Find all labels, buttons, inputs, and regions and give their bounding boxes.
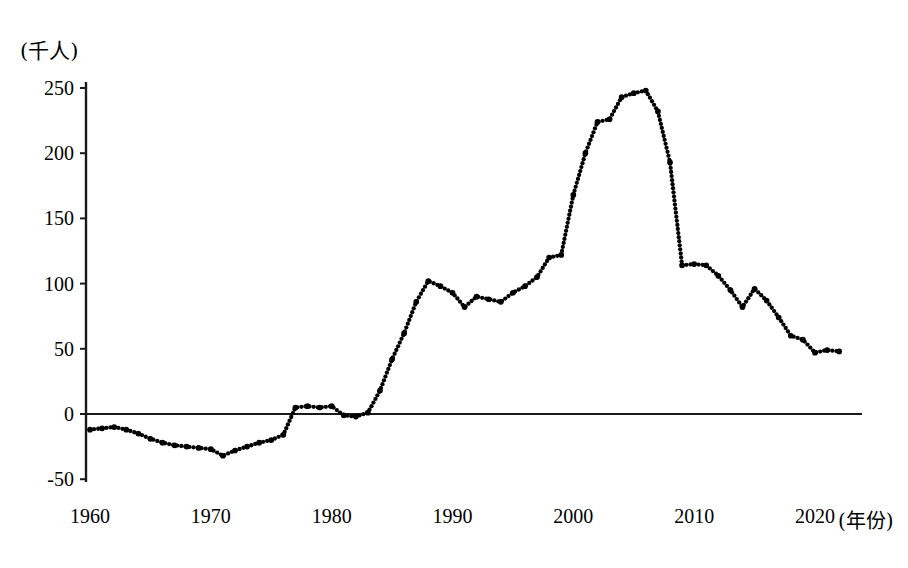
data-point-dot	[631, 90, 637, 96]
data-series-line	[87, 88, 842, 459]
data-point-dot	[666, 154, 670, 158]
data-point-dot	[670, 178, 674, 182]
data-point-dot	[658, 118, 662, 122]
data-point-dot	[836, 349, 842, 355]
data-point-dot	[619, 94, 625, 100]
data-point-dot	[577, 173, 581, 177]
data-point-dot	[324, 405, 328, 409]
data-point-dot	[329, 403, 335, 409]
data-point-dot	[268, 437, 274, 443]
data-point-dot	[280, 432, 286, 438]
data-point-dot	[291, 411, 295, 415]
data-point-dot	[566, 217, 570, 221]
data-point-dot	[674, 211, 678, 215]
data-point-dot	[660, 126, 664, 130]
data-point-dot	[431, 281, 435, 285]
data-point-dot	[675, 223, 679, 227]
data-point-dot	[728, 287, 734, 293]
data-point-dot	[715, 273, 721, 279]
data-point-dot	[563, 233, 567, 237]
data-point-dot	[191, 445, 195, 449]
data-point-dot	[583, 150, 589, 156]
data-point-dot	[155, 439, 159, 443]
data-point-dot	[561, 245, 565, 249]
data-point-dot	[486, 296, 492, 302]
data-point-dot	[600, 119, 604, 123]
data-point-dot	[659, 122, 663, 126]
data-point-dot	[305, 403, 311, 409]
x-tick-label: 1960	[70, 505, 110, 528]
data-point-dot	[691, 261, 697, 267]
data-point-dot	[562, 237, 566, 241]
data-point-dot	[667, 159, 673, 165]
data-point-dot	[669, 170, 673, 174]
data-point-dot	[800, 337, 806, 343]
data-point-dot	[669, 174, 673, 178]
data-point-dot	[412, 306, 416, 310]
y-tick-label: 250	[0, 77, 74, 100]
data-point-dot	[677, 235, 681, 239]
data-point-dot	[662, 134, 666, 138]
data-point-dot	[588, 138, 592, 142]
data-point-dot	[443, 286, 447, 290]
data-point-dot	[824, 347, 830, 353]
data-point-dot	[569, 205, 573, 209]
data-point-dot	[208, 446, 214, 452]
data-point-dot	[135, 431, 141, 437]
data-point-dot	[382, 378, 386, 382]
data-point-dot	[148, 436, 154, 442]
data-point-dot	[684, 263, 688, 267]
data-point-dot	[664, 146, 668, 150]
x-tick-label: 1970	[191, 505, 231, 528]
data-point-dot	[396, 344, 400, 348]
data-point-dot	[413, 299, 419, 305]
data-point-dot	[184, 444, 190, 450]
data-point-dot	[399, 337, 403, 341]
data-point-dot	[593, 126, 597, 130]
data-point-dot	[568, 209, 572, 213]
data-point-dot	[353, 414, 359, 420]
x-axis-unit-label: (年份)	[838, 505, 894, 534]
data-point-dot	[244, 444, 250, 450]
data-point-dot	[788, 333, 794, 339]
data-point-dot	[407, 318, 411, 322]
data-point-dot	[578, 169, 582, 173]
data-point-dot	[410, 310, 414, 314]
data-point-dot	[585, 145, 589, 149]
data-point-dot	[474, 294, 480, 300]
data-point-dot	[522, 283, 528, 289]
data-point-dot	[607, 116, 613, 122]
data-point-dot	[87, 427, 93, 433]
data-point-dot	[675, 219, 679, 223]
data-point-dot	[558, 252, 564, 258]
data-point-dot	[123, 427, 129, 433]
data-point-dot	[341, 412, 347, 418]
data-point-dot	[579, 165, 583, 169]
data-point-dot	[398, 340, 402, 344]
data-point-dot	[517, 287, 521, 291]
x-tick-label: 2000	[553, 505, 593, 528]
data-point-dot	[392, 352, 396, 356]
data-point-dot	[462, 304, 468, 310]
data-point-dot	[663, 138, 667, 142]
data-point-dot	[389, 356, 395, 362]
data-point-dot	[703, 262, 709, 268]
data-point-dot	[673, 202, 677, 206]
data-point-dot	[401, 330, 407, 336]
chart-container: (千人) 250200150100500-50 1960197019801990…	[0, 0, 908, 568]
data-point-dot	[776, 315, 782, 321]
x-tick-label: 2010	[674, 505, 714, 528]
data-point-dot	[582, 157, 586, 161]
data-point-dot	[388, 363, 392, 367]
data-point-dot	[425, 278, 431, 284]
data-point-dot	[679, 251, 683, 255]
data-point-dot	[510, 290, 516, 296]
data-point-dot	[404, 325, 408, 329]
data-point-dot	[576, 177, 580, 181]
data-point-dot	[534, 274, 540, 280]
data-point-dot	[671, 190, 675, 194]
data-point-dot	[672, 198, 676, 202]
data-point-dot	[665, 150, 669, 154]
data-point-dot	[764, 298, 770, 304]
y-tick-label: 50	[0, 337, 74, 360]
